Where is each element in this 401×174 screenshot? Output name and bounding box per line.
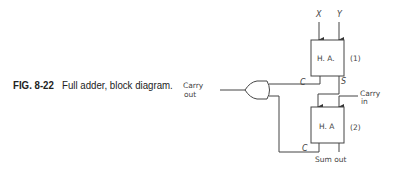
half-adder-1-label: H. A. [317,54,335,63]
full-adder-diagram: X Y H. A. (1) C S Carry in H. A (2) C Su… [0,0,401,174]
half-adder-2-index: (2) [350,123,361,132]
carry-out-label-2: out [184,90,196,99]
carry-in-label-2: in [361,97,368,106]
carry1-wire [269,76,320,84]
or-gate [245,81,270,99]
sum1-wire [318,76,339,107]
half-adder-2-label: H. A [319,122,335,131]
carry-in-wire [339,96,358,107]
y-input-label: Y [337,10,343,19]
sum-out-label: Sum out [315,155,347,164]
x-input-label: X [315,10,322,19]
half-adder-2-carry-port: C [302,144,308,153]
half-adder-1-sum-port: S [341,77,346,86]
half-adder-1-carry-port: C [300,78,306,87]
half-adder-1-index: (1) [350,54,361,63]
carry-out-label-1: Carry [183,81,204,90]
